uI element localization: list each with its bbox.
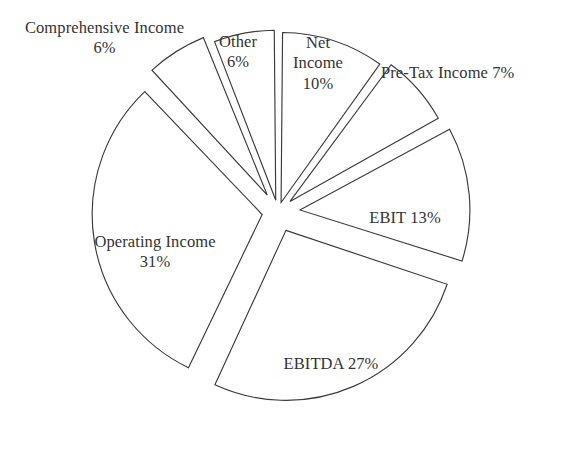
slice-label-operating-income: Operating Income 31% — [66, 232, 244, 273]
slice-label-other: Other 6% — [204, 32, 272, 73]
slice-label-comprehensive-income: Comprehensive Income 6% — [2, 18, 207, 59]
pie-slice-ebit — [300, 129, 470, 261]
slice-label-ebitda: EBITDA 27% — [256, 354, 406, 374]
pie-slice-ebitda — [215, 230, 447, 400]
slice-label-pre-tax-income: Pre-Tax Income 7% — [381, 63, 567, 83]
slice-label-ebit: EBIT 13% — [349, 208, 461, 228]
pie-chart-figure: Net Income 10% Pre-Tax Income 7% EBIT 13… — [0, 0, 567, 465]
slice-label-net-income: Net Income 10% — [279, 33, 357, 94]
